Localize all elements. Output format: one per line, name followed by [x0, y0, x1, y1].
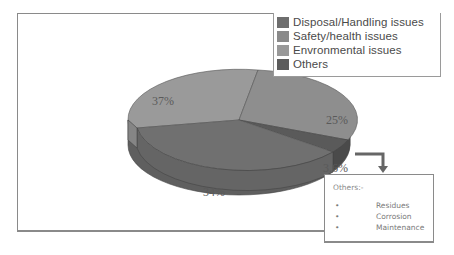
arrow-connector — [355, 154, 383, 168]
others-item-label: Maintenance — [376, 223, 424, 232]
others-item-label: Residues — [376, 201, 410, 210]
bullet-icon: • — [335, 223, 339, 232]
others-annotation-box: Others:- • Residues • Corrosion • Mainte… — [324, 174, 434, 243]
legend-item-others: Others — [277, 57, 328, 71]
label-environmental-pct: 37% — [152, 94, 174, 109]
legend-item-environmental: Envronmental issues — [277, 43, 402, 57]
legend-swatch-environmental — [277, 45, 289, 56]
bullet-icon: • — [335, 201, 339, 210]
legend-swatch-safety — [277, 31, 289, 42]
label-safety-pct: 25% — [326, 113, 348, 128]
chart-legend: Disposal/Handling issues Safety/health i… — [273, 13, 441, 77]
arrow-head-icon — [378, 166, 388, 173]
legend-label: Envronmental issues — [293, 44, 402, 56]
legend-item-disposal: Disposal/Handling issues — [277, 15, 424, 29]
legend-label: Disposal/Handling issues — [293, 16, 424, 28]
legend-label: Others — [293, 58, 328, 70]
bullet-icon: • — [335, 212, 339, 221]
legend-item-safety: Safety/health issues — [277, 29, 398, 43]
others-item-label: Corrosion — [376, 212, 412, 221]
pie-slice-environmental — [128, 69, 258, 128]
label-disposal-pct: 34% — [203, 185, 225, 200]
others-title: Others:- — [333, 183, 363, 192]
legend-label: Safety/health issues — [293, 30, 398, 42]
legend-swatch-others — [277, 59, 289, 70]
legend-swatch-disposal — [277, 17, 289, 28]
